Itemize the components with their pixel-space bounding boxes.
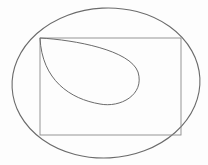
outer-ellipse (8, 3, 204, 163)
teardrop-curve (40, 38, 139, 105)
diagram-canvas (0, 0, 208, 165)
diagram-svg (0, 0, 208, 165)
